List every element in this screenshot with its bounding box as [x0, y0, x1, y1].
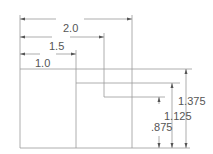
- dimension-label: 1.0: [35, 57, 50, 69]
- dimension-1-5: 1.5: [20, 36, 104, 53]
- dimension-2-0: 2.0: [20, 18, 132, 35]
- arrow-left-icon: [20, 36, 25, 39]
- dimension-1-125: 1.125: [164, 83, 192, 148]
- dimension-label: .875: [151, 121, 172, 133]
- arrow-up-icon: [171, 83, 174, 88]
- arrow-right-icon: [127, 18, 132, 21]
- arrow-up-icon: [185, 69, 188, 74]
- dimension-1-0: 1.0: [20, 53, 76, 70]
- dimension-label: 1.375: [178, 95, 206, 107]
- arrow-down-icon: [158, 143, 161, 148]
- dimension-diagram: 2.0 1.5 1.0 1.375 1.125 .875: [0, 0, 213, 154]
- arrow-left-icon: [20, 53, 25, 56]
- arrow-right-icon: [71, 53, 76, 56]
- dimension-1-375: 1.375: [178, 69, 206, 148]
- dimension-label: 2.0: [63, 22, 78, 34]
- arrow-up-icon: [158, 97, 161, 102]
- dimension-0-875: .875: [151, 97, 172, 148]
- arrow-right-icon: [99, 36, 104, 39]
- arrow-down-icon: [171, 143, 174, 148]
- dimension-label: 1.5: [49, 40, 64, 52]
- arrow-down-icon: [185, 143, 188, 148]
- arrow-left-icon: [20, 18, 25, 21]
